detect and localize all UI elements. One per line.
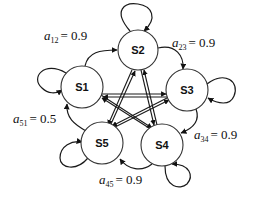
state-diagram: S1 S2 S3 S4 S5 a12= 0.9 a23= 0.9 a34= 0.… <box>0 0 255 201</box>
inner-star-edges <box>101 70 169 128</box>
self-loop-s4 <box>165 164 190 187</box>
self-loop-s3 <box>207 78 235 103</box>
label-a12: a12= 0.9 <box>44 28 87 45</box>
node-s5: S5 <box>81 122 123 164</box>
svg-text:S2: S2 <box>131 44 144 56</box>
label-a51: a51= 0.5 <box>13 111 56 128</box>
svg-text:S4: S4 <box>155 139 169 151</box>
label-a34: a34= 0.9 <box>194 127 237 144</box>
edge-s1-s2 <box>85 50 117 66</box>
label-a23: a23= 0.9 <box>172 35 215 52</box>
node-s4: S4 <box>141 124 183 166</box>
svg-text:S5: S5 <box>95 137 108 149</box>
node-s1: S1 <box>61 66 103 108</box>
svg-text:S1: S1 <box>75 81 88 93</box>
node-s3: S3 <box>166 69 208 111</box>
self-loop-s2 <box>121 4 152 31</box>
label-a45: a45= 0.9 <box>99 172 142 189</box>
svg-text:S3: S3 <box>180 84 193 96</box>
node-s2: S2 <box>118 30 158 70</box>
